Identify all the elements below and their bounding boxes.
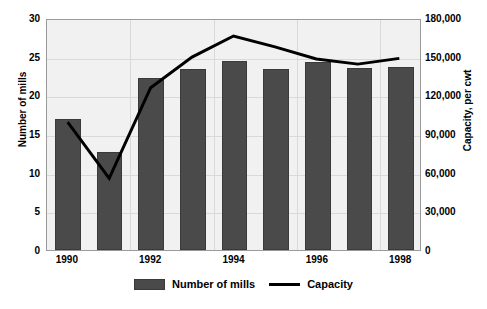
chart-container: Number of mills Capacity, per cwt 051015… [0, 0, 487, 309]
bar-swatch-icon [134, 279, 165, 290]
line-swatch-icon [269, 283, 300, 286]
plot-area [46, 19, 421, 251]
capacity-polyline [68, 36, 400, 178]
x-tick-label: 1998 [389, 254, 411, 265]
legend-label-capacity: Capacity [307, 278, 353, 290]
x-tick-label: 1994 [222, 254, 244, 265]
line-series [47, 20, 420, 250]
legend: Number of mills Capacity [0, 278, 487, 290]
x-tick-label: 1996 [306, 254, 328, 265]
x-tick-label: 1992 [139, 254, 161, 265]
legend-item-capacity: Capacity [269, 278, 353, 290]
legend-label-mills: Number of mills [172, 278, 255, 290]
legend-item-mills: Number of mills [134, 278, 255, 290]
x-tick-label: 1990 [56, 254, 78, 265]
plot-inner [47, 20, 420, 250]
